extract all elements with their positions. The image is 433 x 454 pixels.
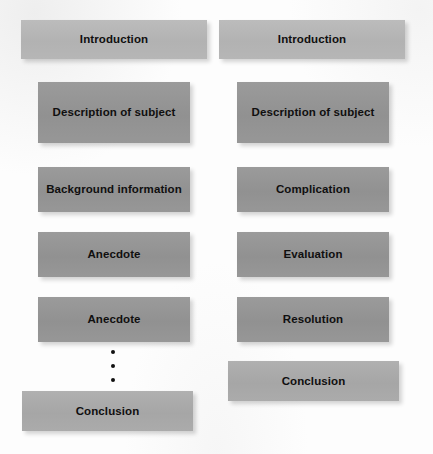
left-box-conclusion: Conclusion: [22, 391, 193, 431]
vertical-ellipsis-icon: [110, 350, 115, 382]
left-box-anecdote-1: Anecdote: [38, 232, 190, 277]
right-box-evaluation: Evaluation: [237, 232, 389, 277]
right-box-resolution: Resolution: [237, 297, 389, 342]
left-box-introduction: Introduction: [21, 20, 207, 59]
diagram-canvas: Introduction Description of subject Back…: [0, 0, 433, 454]
right-box-complication-label: Complication: [272, 183, 354, 196]
left-box-background-information-label: Background information: [42, 183, 186, 196]
left-box-conclusion-label: Conclusion: [72, 405, 144, 418]
right-box-complication: Complication: [237, 167, 389, 212]
right-box-description-of-subject-label: Description of subject: [248, 106, 379, 119]
right-box-description-of-subject: Description of subject: [237, 82, 389, 143]
left-box-anecdote-1-label: Anecdote: [83, 248, 144, 261]
right-box-introduction-label: Introduction: [274, 33, 350, 46]
left-box-introduction-label: Introduction: [76, 33, 152, 46]
left-box-description-of-subject: Description of subject: [38, 82, 190, 143]
right-box-conclusion-label: Conclusion: [278, 375, 350, 388]
left-box-description-of-subject-label: Description of subject: [49, 106, 180, 119]
left-box-background-information: Background information: [38, 167, 190, 212]
right-box-conclusion: Conclusion: [228, 361, 399, 401]
right-box-resolution-label: Resolution: [279, 313, 347, 326]
ellipsis-dot: [111, 350, 115, 354]
left-box-anecdote-2: Anecdote: [38, 297, 190, 342]
ellipsis-dot: [111, 378, 115, 382]
right-box-evaluation-label: Evaluation: [279, 248, 346, 261]
right-box-introduction: Introduction: [219, 20, 405, 59]
left-box-anecdote-2-label: Anecdote: [83, 313, 144, 326]
ellipsis-dot: [111, 364, 115, 368]
